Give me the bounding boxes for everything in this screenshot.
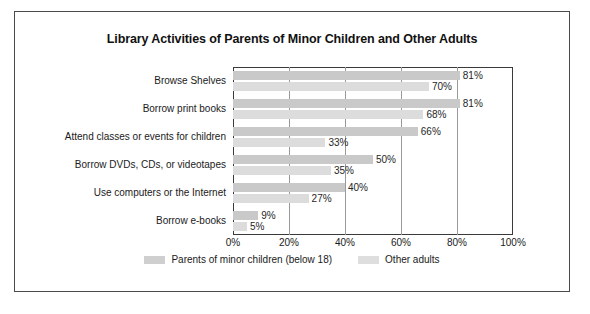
x-tick-label: 0% bbox=[226, 237, 240, 248]
category-row: Borrow e-books9%5% bbox=[233, 207, 513, 235]
x-tick-label: 80% bbox=[447, 237, 467, 248]
x-tick-label: 40% bbox=[335, 237, 355, 248]
bar[interactable]: 81% bbox=[233, 71, 460, 80]
bar-slot: 81% bbox=[233, 71, 513, 80]
bar[interactable]: 68% bbox=[233, 110, 423, 119]
bar-slot: 70% bbox=[233, 82, 513, 91]
bar[interactable]: 81% bbox=[233, 99, 460, 108]
bar[interactable]: 40% bbox=[233, 183, 345, 192]
bar-slot: 5% bbox=[233, 222, 513, 231]
category-label: Use computers or the Internet bbox=[94, 188, 226, 198]
bar-value-label: 27% bbox=[312, 194, 332, 204]
chart-figure: Library Activities of Parents of Minor C… bbox=[14, 11, 570, 292]
bar-slot: 40% bbox=[233, 183, 513, 192]
bar-value-label: 5% bbox=[250, 222, 264, 232]
bar[interactable]: 5% bbox=[233, 222, 247, 231]
bar[interactable]: 35% bbox=[233, 166, 331, 175]
legend-item[interactable]: Parents of minor children (below 18) bbox=[144, 255, 332, 265]
category-label: Borrow DVDs, CDs, or videotapes bbox=[75, 160, 226, 170]
category-row: Use computers or the Internet40%27% bbox=[233, 179, 513, 207]
bar[interactable]: 27% bbox=[233, 194, 309, 203]
bar-slot: 33% bbox=[233, 138, 513, 147]
plot-wrapper: Browse Shelves81%70%Borrow print books81… bbox=[233, 67, 513, 235]
bar-slot: 35% bbox=[233, 166, 513, 175]
bar-value-label: 35% bbox=[334, 166, 354, 176]
legend-label: Parents of minor children (below 18) bbox=[171, 255, 332, 265]
bar-slot: 68% bbox=[233, 110, 513, 119]
x-tick-label: 60% bbox=[391, 237, 411, 248]
legend-item[interactable]: Other adults bbox=[358, 255, 439, 265]
legend-swatch bbox=[358, 256, 379, 264]
bar-value-label: 81% bbox=[463, 99, 483, 109]
category-row: Browse Shelves81%70% bbox=[233, 67, 513, 95]
bar[interactable]: 70% bbox=[233, 82, 429, 91]
bar-value-label: 70% bbox=[432, 82, 452, 92]
bar-slot: 50% bbox=[233, 155, 513, 164]
category-row: Borrow DVDs, CDs, or videotapes50%35% bbox=[233, 151, 513, 179]
bar-value-label: 40% bbox=[348, 183, 368, 193]
bar-value-label: 50% bbox=[376, 155, 396, 165]
category-label: Borrow print books bbox=[143, 104, 226, 114]
category-row: Attend classes or events for children66%… bbox=[233, 123, 513, 151]
bar[interactable]: 50% bbox=[233, 155, 373, 164]
bar-value-label: 81% bbox=[463, 71, 483, 81]
legend-swatch bbox=[144, 256, 165, 264]
bar-value-label: 66% bbox=[421, 127, 441, 137]
x-tick-label: 100% bbox=[500, 237, 526, 248]
chart-legend: Parents of minor children (below 18)Othe… bbox=[15, 255, 569, 265]
legend-label: Other adults bbox=[385, 255, 439, 265]
chart-title: Library Activities of Parents of Minor C… bbox=[15, 32, 569, 46]
x-axis: 0%20%40%60%80%100% bbox=[233, 237, 513, 253]
bar-slot: 81% bbox=[233, 99, 513, 108]
bar-slot: 27% bbox=[233, 194, 513, 203]
category-label: Borrow e-books bbox=[156, 216, 226, 226]
bar-slot: 9% bbox=[233, 211, 513, 220]
bar-value-label: 9% bbox=[261, 211, 275, 221]
bar-value-label: 68% bbox=[426, 110, 446, 120]
category-row: Borrow print books81%68% bbox=[233, 95, 513, 123]
bar[interactable]: 33% bbox=[233, 138, 325, 147]
bar[interactable]: 9% bbox=[233, 211, 258, 220]
x-tick-label: 20% bbox=[279, 237, 299, 248]
bar-value-label: 33% bbox=[328, 138, 348, 148]
category-label: Attend classes or events for children bbox=[65, 132, 226, 142]
category-label: Browse Shelves bbox=[154, 76, 226, 86]
bar-slot: 66% bbox=[233, 127, 513, 136]
bar[interactable]: 66% bbox=[233, 127, 418, 136]
